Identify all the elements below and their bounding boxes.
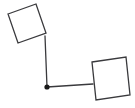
diagram-canvas [0,0,135,108]
square-bottom-right[interactable] [92,57,130,100]
diagram-svg [0,0,135,108]
joint-center-dot[interactable] [44,84,49,89]
